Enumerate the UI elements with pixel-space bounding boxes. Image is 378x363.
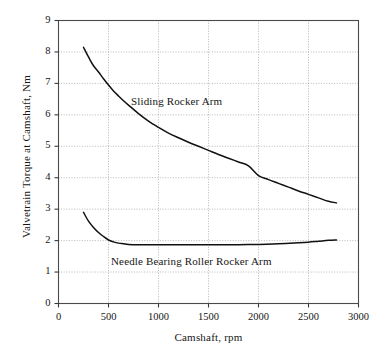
x-tick-label: 1000: [134, 311, 184, 322]
y-tick-label: 1: [19, 265, 51, 276]
x-tick-label: 500: [84, 311, 134, 322]
series-label-needle-bearing-roller-rocker-arm: Needle Bearing Roller Rocker Arm: [111, 255, 272, 267]
x-tick-label: 2000: [234, 311, 284, 322]
data-curve-0: [84, 47, 337, 203]
chart-figure: 0123456789050010001500200025003000 Valve…: [0, 0, 378, 363]
torque-vs-speed-chart: [0, 0, 378, 363]
y-tick-label: 0: [19, 297, 51, 308]
x-tick-label: 2500: [284, 311, 334, 322]
x-tick-label: 1500: [184, 311, 234, 322]
y-tick-label: 9: [19, 14, 51, 25]
x-axis-title: Camshaft, rpm: [175, 331, 243, 343]
x-tick-label: 0: [34, 311, 84, 322]
x-tick-label: 3000: [334, 311, 378, 322]
y-tick-label: 8: [19, 45, 51, 56]
series-label-sliding-rocker-arm: Sliding Rocker Arm: [131, 95, 222, 107]
y-axis-title: Valvetrain Torque at Camshaft, Nm: [20, 75, 32, 238]
data-curve-1: [84, 212, 337, 244]
